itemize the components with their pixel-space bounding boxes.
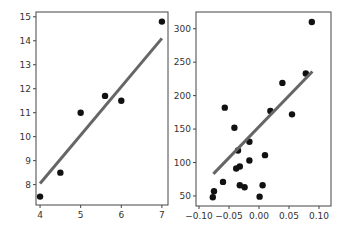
x-tick-label: 6 — [118, 210, 124, 220]
y-tick-label: 10 — [20, 132, 32, 142]
x-tick-label: 4 — [37, 210, 43, 220]
chart-figure: 456789101112131415 −0.10−0.050.000.050.1… — [0, 0, 346, 232]
regression-line — [213, 72, 312, 174]
x-tick-label: 0.05 — [279, 211, 299, 221]
left-scatter-plot: 456789101112131415 — [20, 12, 168, 220]
x-tick-label: −0.05 — [215, 211, 243, 221]
y-tick-label: 200 — [174, 91, 191, 101]
data-point — [262, 152, 268, 158]
data-point — [77, 109, 83, 115]
data-point — [37, 193, 43, 199]
y-tick-label: 13 — [20, 60, 31, 70]
x-tick-label: 5 — [78, 210, 84, 220]
data-point — [231, 125, 237, 131]
data-point — [211, 188, 217, 194]
data-point — [289, 111, 295, 117]
y-tick-label: 100 — [174, 158, 191, 168]
data-point — [210, 194, 216, 200]
regression-line — [40, 38, 162, 183]
y-tick-label: 300 — [174, 24, 191, 34]
x-tick-label: 0.10 — [309, 211, 329, 221]
axes-frame — [196, 12, 331, 206]
right-scatter-plot: −0.10−0.050.000.050.1050100150200250300 — [174, 12, 331, 221]
x-tick-label: 7 — [159, 210, 165, 220]
y-tick-label: 14 — [20, 36, 32, 46]
data-point — [241, 184, 247, 190]
x-tick-label: −0.10 — [185, 211, 213, 221]
data-point — [256, 193, 262, 199]
data-point — [159, 18, 165, 24]
y-tick-label: 12 — [20, 84, 31, 94]
x-tick-label: 0.00 — [249, 211, 269, 221]
data-point — [309, 19, 315, 25]
data-point — [237, 163, 243, 169]
y-tick-label: 8 — [25, 180, 31, 190]
data-point — [222, 104, 228, 110]
y-tick-label: 150 — [174, 124, 191, 134]
y-tick-label: 50 — [180, 191, 192, 201]
data-point — [220, 179, 226, 185]
data-point — [279, 80, 285, 86]
data-point — [259, 182, 265, 188]
data-point — [102, 93, 108, 99]
data-point — [246, 157, 252, 163]
data-point — [118, 98, 124, 104]
data-point — [57, 169, 63, 175]
y-tick-label: 15 — [20, 12, 31, 22]
y-tick-label: 11 — [20, 108, 31, 118]
y-tick-label: 250 — [174, 57, 191, 67]
y-tick-label: 9 — [25, 156, 31, 166]
